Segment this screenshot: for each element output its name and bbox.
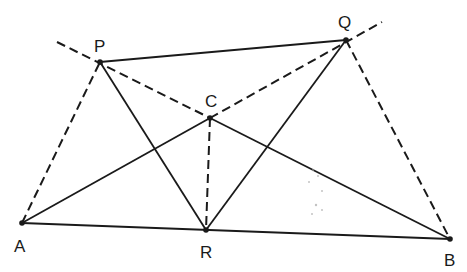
point-q [343, 37, 349, 43]
segment-pq [100, 40, 346, 62]
point-r [203, 227, 209, 233]
segment-cb [210, 118, 450, 239]
point-p [97, 59, 103, 65]
scan-smudge [308, 169, 323, 215]
solid-segments [22, 40, 450, 239]
point-c [207, 115, 213, 121]
label-b: B [444, 251, 455, 270]
segment-qr [206, 40, 346, 230]
label-r: R [200, 243, 212, 262]
label-a: A [14, 237, 26, 256]
dashed-segment-ap [22, 62, 100, 223]
segment-pr [100, 62, 206, 230]
segment-ab [22, 223, 450, 239]
label-c: C [205, 92, 217, 111]
dashed-line-through-c-q [210, 22, 382, 118]
point-a [19, 220, 25, 226]
point-b [447, 236, 453, 242]
geometry-diagram: P Q C A R B [0, 0, 467, 272]
points [19, 37, 453, 242]
label-p: P [94, 37, 105, 56]
label-q: Q [338, 13, 351, 32]
dashed-segment-qb [346, 40, 450, 239]
segment-ac [22, 118, 210, 223]
dashed-segment-cr [206, 118, 210, 230]
